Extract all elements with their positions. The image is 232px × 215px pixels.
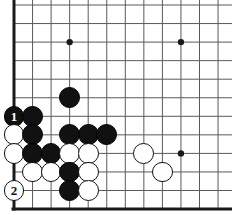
stone-white[interactable] — [78, 143, 99, 164]
star-point — [178, 39, 184, 45]
stone-move-number: 2 — [5, 181, 24, 200]
stone-black[interactable] — [22, 143, 43, 164]
stone-white[interactable] — [59, 143, 80, 164]
stone-move-number: 1 — [5, 107, 24, 126]
stone-white[interactable] — [22, 162, 43, 183]
stone-black[interactable] — [59, 87, 80, 108]
go-board-diagram: 12 — [0, 0, 232, 215]
stone-white[interactable] — [133, 143, 154, 164]
stone-white[interactable]: 2 — [4, 180, 25, 201]
stone-white[interactable] — [78, 180, 99, 201]
star-point — [178, 150, 184, 156]
stone-black[interactable] — [59, 180, 80, 201]
stone-white[interactable] — [152, 162, 173, 183]
star-point — [66, 39, 72, 45]
